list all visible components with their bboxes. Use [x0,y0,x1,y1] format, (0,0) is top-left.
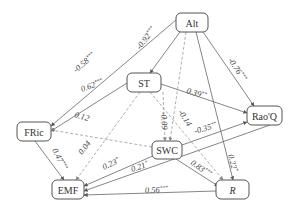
significance-stars: *** [84,50,94,60]
coef-label-r-emf: 0.56*** [145,184,169,195]
sem-path-diagram: -0.58***-0.92***-0.76***0.22*0.62***0.39… [0,0,294,216]
node-label: SWC [156,145,178,156]
significance-stars: *** [239,71,249,81]
coef-label-swc-fric: 0.12 [73,109,91,123]
coef-label-alt-st: -0.92*** [134,24,158,51]
node-st: ST [127,73,161,92]
significance-stars: * [144,159,149,166]
significance-stars: *** [93,76,103,85]
coef-label-swc-emf: 0.23* [101,155,121,172]
node-label: Alt [186,18,199,29]
edge-alt-to-swc [170,32,186,141]
edge-st-to-r [150,92,223,180]
edge-alt-to-raoq [203,32,254,106]
node-label: EMF [58,185,79,196]
significance-stars: * [114,155,119,162]
node-swc: SWC [152,141,182,159]
significance-stars: *** [160,184,169,190]
significance-stars: ** [201,90,208,97]
node-raoq: Rao'Q [247,106,282,125]
node-emf: EMF [52,180,84,199]
node-r: R [216,180,249,199]
coef-label-alt-r: 0.22* [226,153,240,173]
node-alt: Alt [176,13,208,32]
node-fric: FRic [17,122,51,141]
edge-st-to-raoq [161,84,247,113]
significance-stars: ** [210,120,217,127]
coef-label-alt-fric: -0.58*** [71,50,98,75]
path-coefficients: -0.58***-0.92***-0.76***0.22*0.62***0.39… [50,24,249,195]
coef-label-swc-r: 0.83*** [189,157,214,179]
node-label: Rao'Q [252,111,278,122]
significance-stars: *** [145,24,155,34]
node-label: ST [138,78,150,89]
significance-stars: * [234,167,241,171]
significance-stars: *** [61,160,70,170]
coef-label-st-swc: -0.09 [159,112,170,131]
node-label: FRic [24,127,44,138]
node-label: R [228,185,235,196]
coef-label-st-r: -0.14 [176,108,194,129]
coef-label-alt-raoq: -0.76*** [226,56,249,83]
coef-label-st-emf: 0.04 [76,138,93,156]
coef-label-fric-emf: 0.47*** [50,146,70,171]
